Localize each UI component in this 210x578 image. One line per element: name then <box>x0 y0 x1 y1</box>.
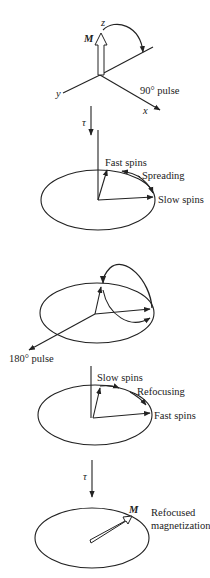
fast-spin-vector <box>95 287 101 314</box>
pulse-label: 90° pulse <box>140 85 180 96</box>
tau-label: τ <box>82 117 87 128</box>
spreading-label: Spreading <box>142 170 185 181</box>
panel-echo: M Refocused magnetization <box>35 504 210 568</box>
slow-spin-vector <box>93 388 100 418</box>
y-axis-far <box>100 47 153 75</box>
transverse-plane <box>38 385 152 445</box>
z-axis-label: z <box>100 17 105 28</box>
y-axis <box>63 75 100 93</box>
refocusing-arrow-icon <box>100 386 119 388</box>
rotation-arc-icon <box>103 24 143 52</box>
pulse-label: 180° pulse <box>9 353 54 364</box>
m-label: M <box>83 33 94 44</box>
x-axis-label: x <box>142 105 148 116</box>
delay-arrow-2: τ <box>83 460 92 497</box>
refocused-label-line2: magnetization <box>151 520 210 531</box>
fast-spin-vector <box>93 413 150 418</box>
slow-spins-label: Slow spins <box>158 194 204 205</box>
refocused-magnetization-icon <box>90 516 132 543</box>
fast-spins-label: Fast spins <box>154 410 196 421</box>
fast-spins-label: Fast spins <box>105 157 147 168</box>
spin-echo-diagram: z M y x 90° pulse τ Fast spins Spreading… <box>0 0 210 578</box>
tau-label: τ <box>83 471 88 482</box>
panel-inversion: 180° pulse <box>9 264 154 364</box>
refocused-label-line1: Refocused <box>151 507 196 518</box>
delay-arrow-1: τ <box>82 106 91 135</box>
spreading-arrow-back-icon <box>122 171 140 177</box>
slow-spin-vector <box>95 309 150 314</box>
y-axis-label: y <box>55 88 61 99</box>
pulse-axis-arrow <box>29 314 95 350</box>
m-label: M <box>128 504 139 515</box>
flip-arc-outer-icon <box>103 264 152 308</box>
magnetization-vector-icon <box>95 33 107 75</box>
panel-initial: z M y x 90° pulse <box>55 17 180 116</box>
panel-dephasing: Fast spins Spreading Slow spins <box>41 130 204 230</box>
transverse-plane <box>40 283 154 343</box>
fast-spin-vector <box>98 170 107 200</box>
slow-spins-label: Slow spins <box>97 372 143 383</box>
panel-refocusing: Slow spins Refocusing Fast spins <box>38 366 196 445</box>
refocusing-label: Refocusing <box>137 386 186 397</box>
slow-spin-vector <box>98 197 153 200</box>
